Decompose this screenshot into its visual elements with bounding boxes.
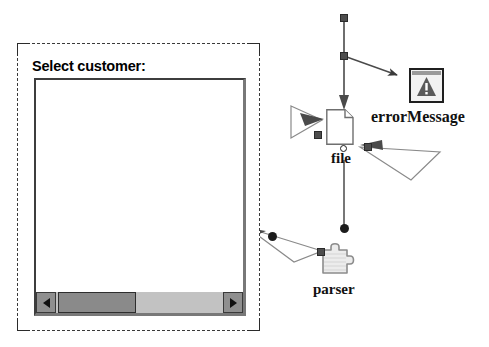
node-label-error-message: errorMessage <box>371 108 465 126</box>
selected-dialog-widget[interactable]: Select customer: <box>17 43 260 331</box>
customer-dialog: Select customer: <box>32 58 250 320</box>
scroll-right-arrow-button[interactable] <box>223 292 243 313</box>
page-title: Select customer: <box>32 58 146 74</box>
screenshot-canvas: Select customer: <box>0 0 489 347</box>
node-label-file: file <box>331 150 351 167</box>
chevron-left-icon <box>43 298 50 308</box>
connector-right-wedge[interactable] <box>360 140 440 180</box>
handle-right-wedge[interactable] <box>364 143 372 151</box>
document-page-icon[interactable] <box>326 109 354 145</box>
handle-mid[interactable] <box>340 52 348 60</box>
handle-link-dot[interactable] <box>340 224 349 233</box>
scrollbar-track[interactable] <box>56 292 223 313</box>
warning-glyph <box>411 70 442 101</box>
selection-handle-bottom-left[interactable] <box>17 318 30 331</box>
puzzle-component-icon[interactable] <box>322 243 360 275</box>
handle-bend-dot[interactable] <box>268 232 277 241</box>
warning-triangle-icon[interactable] <box>409 68 444 103</box>
handle-left-wedge[interactable] <box>314 131 322 139</box>
chevron-right-icon <box>230 298 237 308</box>
scroll-left-arrow-button[interactable] <box>36 292 56 313</box>
connector-top-vertical[interactable] <box>339 18 349 110</box>
node-label-parser: parser <box>313 281 355 298</box>
customer-list[interactable] <box>36 80 243 292</box>
puzzle-glyph <box>322 243 360 275</box>
document-glyph <box>326 109 354 145</box>
scrollbar-thumb[interactable] <box>58 292 136 313</box>
selection-handle-top-right[interactable] <box>247 43 260 56</box>
handle-top[interactable] <box>340 14 348 22</box>
horizontal-scrollbar[interactable] <box>36 292 243 313</box>
selection-handle-top-left[interactable] <box>17 43 30 56</box>
handle-parser-link[interactable] <box>317 248 325 256</box>
customer-list-frame <box>34 78 246 316</box>
connector-to-error-message[interactable] <box>344 56 397 75</box>
